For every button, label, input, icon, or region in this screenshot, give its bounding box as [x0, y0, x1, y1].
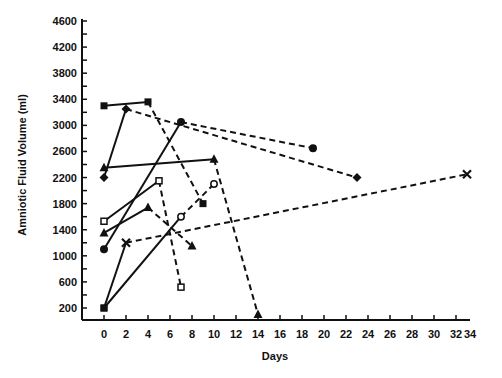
y-axis-title: Amniotic Fluid Volume (ml): [16, 94, 28, 236]
filled-triangle-marker-icon: [254, 310, 263, 319]
dashed-segment: [181, 122, 313, 148]
open-circle-marker-icon: [178, 213, 184, 219]
series-group: [100, 98, 472, 318]
y-tick-label: 200: [59, 302, 77, 314]
y-tick-label: 3800: [53, 67, 77, 79]
open-square-marker-icon: [101, 218, 107, 224]
y-tick-label: 1000: [53, 250, 77, 262]
x-tick-label: 12: [230, 328, 242, 340]
x-tick-label: 32: [450, 328, 462, 340]
solid-segment: [104, 243, 126, 308]
dashed-segment: [214, 159, 258, 314]
dashed-segment: [126, 174, 467, 242]
filled-square-marker-icon: [101, 305, 108, 312]
y-tick-label: 3000: [53, 119, 77, 131]
filled-diamond-marker-icon: [122, 105, 131, 114]
amniotic-fluid-chart: 2006001000140018002200260030003400380042…: [0, 0, 502, 378]
x-tick-label: 20: [318, 328, 330, 340]
x-tick-label: 28: [406, 328, 418, 340]
y-tick-label: 2200: [53, 172, 77, 184]
x-tick-label: 6: [167, 328, 173, 340]
x-tick-label: 14: [252, 328, 265, 340]
filled-diamond-marker-icon: [353, 173, 362, 182]
series-patient-8: [104, 184, 214, 308]
series-patient-2: [104, 109, 357, 177]
x-tick-label: 0: [101, 328, 107, 340]
open-square-marker-icon: [178, 284, 184, 290]
filled-square-marker-icon: [200, 200, 207, 207]
markers-patient-2: [100, 105, 362, 182]
x-tick-label: 4: [145, 328, 152, 340]
y-tick-label: 2600: [53, 145, 77, 157]
y-tick-label: 4600: [53, 15, 77, 27]
x-tick-label: 2: [123, 328, 129, 340]
filled-triangle-marker-icon: [144, 203, 153, 212]
x-tick-label: 22: [340, 328, 352, 340]
filled-square-marker-icon: [101, 102, 108, 109]
x-tick-label: 26: [384, 328, 396, 340]
y-tick-label: 600: [59, 276, 77, 288]
open-circle-marker-icon: [211, 181, 217, 187]
series-patient-6: [104, 122, 313, 249]
solid-segment: [104, 181, 159, 221]
y-tick-label: 1400: [53, 224, 77, 236]
y-tick-label: 3400: [53, 93, 77, 105]
dashed-segment: [181, 184, 214, 217]
filled-circle-marker-icon: [100, 245, 108, 253]
x-tick-label: 16: [274, 328, 286, 340]
markers-patient-6: [100, 118, 317, 253]
open-square-marker-icon: [156, 178, 162, 184]
filled-circle-marker-icon: [309, 144, 317, 152]
x-tick-label: 10: [208, 328, 220, 340]
filled-square-marker-icon: [145, 98, 152, 105]
solid-segment: [104, 159, 214, 167]
dashed-segment: [126, 109, 357, 177]
filled-diamond-marker-icon: [100, 173, 109, 182]
x-tick-label: 18: [296, 328, 308, 340]
series-patient-1: [104, 102, 203, 204]
markers-patient-7: [101, 170, 472, 311]
x-tick-label: 34: [464, 328, 477, 340]
x-tick-label: 30: [428, 328, 440, 340]
x-axis-title: Days: [262, 350, 288, 362]
x-tick-label: 8: [189, 328, 195, 340]
y-tick-label: 4200: [53, 41, 77, 53]
axes: 2006001000140018002200260030003400380042…: [53, 15, 477, 340]
x-tick-label: 24: [362, 328, 375, 340]
y-tick-label: 1800: [53, 198, 77, 210]
markers-patient-1: [101, 98, 207, 207]
series-patient-7: [104, 174, 467, 308]
filled-circle-marker-icon: [177, 118, 185, 126]
